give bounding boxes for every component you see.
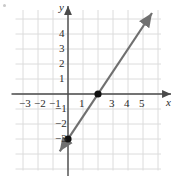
x-tick-label: −3 bbox=[19, 98, 31, 109]
axis-lines bbox=[12, 6, 172, 176]
y-tick-label: 3 bbox=[59, 43, 65, 54]
y-tick-label: −3 bbox=[55, 133, 67, 144]
y-axis-label: y bbox=[59, 2, 64, 13]
graph-figure: −3−2−113454321−1−2−3 x y bbox=[0, 0, 177, 179]
y-tick-label: −2 bbox=[55, 118, 67, 129]
y-tick-label: 2 bbox=[59, 58, 65, 69]
x-tick-label: −2 bbox=[34, 98, 46, 109]
coordinate-plane bbox=[0, 0, 177, 179]
y-tick-label: 4 bbox=[59, 28, 65, 39]
x-axis-label: x bbox=[166, 97, 171, 108]
x-tick-label: 5 bbox=[139, 98, 145, 109]
x-tick-label: 4 bbox=[124, 98, 130, 109]
y-tick-label: 1 bbox=[59, 73, 65, 84]
x-tick-label: 1 bbox=[79, 98, 85, 109]
y-tick-label: −1 bbox=[55, 103, 67, 114]
x-tick-label: 3 bbox=[109, 98, 115, 109]
